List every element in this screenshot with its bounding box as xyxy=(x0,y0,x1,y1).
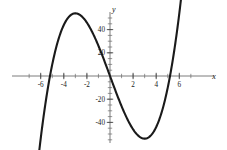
plot-background xyxy=(0,0,227,150)
y-tick-label: -20 xyxy=(95,96,105,104)
y-tick-label: 40 xyxy=(98,26,106,34)
x-tick-label: 2 xyxy=(131,81,135,89)
x-tick-label: 6 xyxy=(178,81,182,89)
x-tick-label: -6 xyxy=(38,81,44,89)
y-tick-label: -40 xyxy=(95,119,105,127)
x-axis-label: x xyxy=(211,72,216,81)
y-axis-label: y xyxy=(111,5,116,14)
cubic-function-plot: -6-4-2246 4020-20-40 x y xyxy=(0,0,227,150)
x-tick-label: 4 xyxy=(154,81,158,89)
plot-canvas: -6-4-2246 4020-20-40 x y xyxy=(0,0,227,150)
x-tick-label: -4 xyxy=(61,81,67,89)
x-tick-label: -2 xyxy=(84,81,90,89)
